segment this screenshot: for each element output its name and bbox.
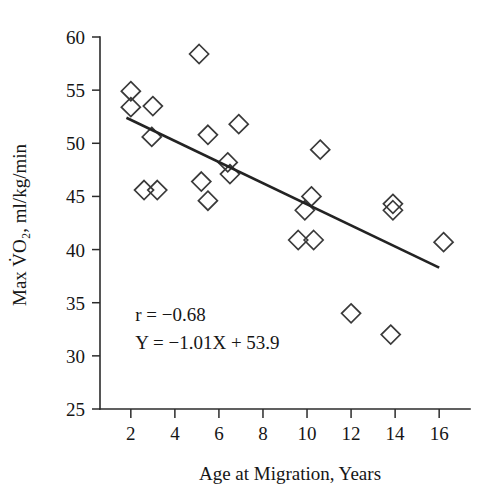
x-axis-label: Age at Migration, Years — [199, 463, 381, 484]
y-tick-label: 30 — [66, 346, 85, 367]
plot-canvas: 2530354045505560 246810121416 r = −0.68Y… — [0, 0, 498, 501]
y-tick-label: 60 — [66, 27, 85, 48]
y-tick-label: 40 — [66, 240, 85, 261]
x-tick-label: 4 — [170, 423, 180, 444]
x-axis-ticks: 246810121416 — [126, 409, 449, 444]
y-axis-label: Max V̇O₂, ml/kg/min — [8, 144, 30, 306]
annotation-correlation: r = −0.68 — [135, 304, 206, 325]
x-tick-label: 2 — [126, 423, 136, 444]
y-tick-label: 50 — [66, 133, 85, 154]
plot-annotations: r = −0.68Y = −1.01X + 53.9 — [135, 304, 279, 354]
y-tick-label: 25 — [66, 399, 85, 420]
data-point-diamond — [381, 325, 400, 344]
data-point-diamond — [190, 45, 209, 64]
scatter-plot-figure: 2530354045505560 246810121416 r = −0.68Y… — [0, 0, 498, 501]
y-tick-label: 45 — [66, 186, 85, 207]
y-tick-label: 35 — [66, 293, 85, 314]
data-point-diamond — [198, 191, 217, 210]
data-point-diamond — [383, 194, 402, 213]
x-tick-label: 14 — [386, 423, 406, 444]
x-tick-label: 8 — [258, 423, 268, 444]
x-tick-label: 16 — [430, 423, 449, 444]
data-point-diamond — [342, 304, 361, 323]
data-point-diamond — [143, 97, 162, 116]
regression-line — [126, 118, 439, 268]
data-point-diamond — [311, 140, 330, 159]
x-tick-label: 6 — [214, 423, 224, 444]
data-point-diamond — [192, 172, 211, 191]
y-tick-label: 55 — [66, 80, 85, 101]
data-point-diamond — [383, 201, 402, 220]
y-axis-ticks: 2530354045505560 — [66, 27, 100, 420]
data-point-diamond — [229, 115, 248, 134]
data-point-diamond — [434, 233, 453, 252]
x-tick-label: 10 — [298, 423, 317, 444]
data-point-diamond — [148, 181, 167, 200]
annotation-regression-equation: Y = −1.01X + 53.9 — [135, 332, 279, 353]
x-axis: 246810121416 — [100, 409, 470, 444]
y-axis: 2530354045505560 — [66, 27, 100, 420]
x-tick-label: 12 — [342, 423, 361, 444]
data-point-diamond — [198, 125, 217, 144]
data-point-diamond — [135, 181, 154, 200]
